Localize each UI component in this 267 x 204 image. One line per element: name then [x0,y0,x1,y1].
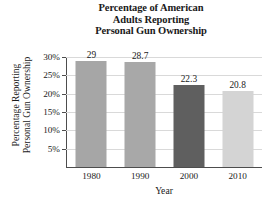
plot-area: 30%25%20%15%10%5% 2928.722.320.8 1980199… [66,57,262,167]
y-axis-tick [62,112,66,113]
x-axis-tick-label: 1980 [82,171,100,181]
chart-title-line-3: Personal Gun Ownership [42,25,260,37]
x-axis-tick-label: 1990 [131,171,149,181]
bar-value-label: 28.7 [132,51,148,61]
y-axis-tick [62,149,66,150]
bar-slot: 28.7 [116,57,165,167]
y-axis-tick-label: 20% [43,89,60,99]
chart-title-line-1: Percentage of American [42,2,260,14]
y-axis-title-line-2: Personal Gun Ownership [21,57,32,153]
y-axis-tick-label: 10% [43,125,60,135]
y-axis-tick [62,94,66,95]
bar[interactable] [76,61,107,167]
y-axis-title-line-1: Percentage Reporting [10,57,21,153]
bar[interactable] [125,62,156,167]
bar-value-label: 22.3 [181,74,197,84]
bar-value-label: 20.8 [229,80,245,90]
chart-title-line-2: Adults Reporting [42,14,260,26]
bar-slot: 20.8 [213,57,262,167]
x-axis-title: Year [66,185,262,196]
bar-series: 2928.722.320.8 [67,57,262,167]
x-axis-line [66,167,262,168]
bar-slot: 22.3 [165,57,214,167]
y-axis-tick [62,130,66,131]
x-axis-tick-label: 2000 [180,171,198,181]
chart-title: Percentage of American Adults Reporting … [42,2,260,37]
y-axis-tick-label: 25% [43,70,60,80]
y-axis-tick [62,57,66,58]
bar[interactable] [222,91,253,167]
y-axis-tick-label: 15% [43,107,60,117]
bar-chart-figure: Percentage of American Adults Reporting … [0,0,267,204]
y-axis-tick-label: 5% [48,144,60,154]
bar-value-label: 29 [87,50,96,60]
bar[interactable] [173,85,204,167]
x-axis-tick-label: 2010 [228,171,246,181]
y-axis-tick [62,75,66,76]
bar-slot: 29 [67,57,116,167]
y-axis-tick-label: 30% [43,52,60,62]
